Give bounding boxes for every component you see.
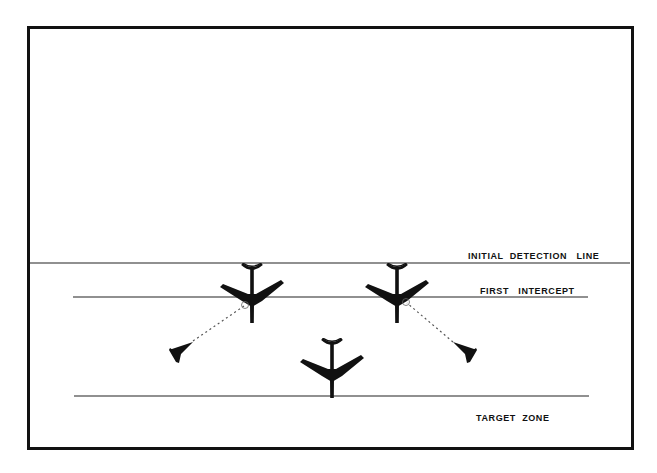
first-intercept-label: FIRST INTERCEPT — [480, 286, 575, 296]
target-zone-label: TARGET ZONE — [476, 413, 550, 423]
interceptor-left-icon — [169, 342, 193, 363]
bomber-left-icon — [220, 263, 284, 323]
bomber-right-icon — [365, 263, 429, 323]
bomber-center-icon — [300, 338, 364, 398]
interceptor-right-icon — [453, 342, 477, 363]
missile-path-right — [407, 303, 453, 342]
missile-path-left — [193, 306, 244, 341]
initial-detection-label: INITIAL DETECTION LINE — [468, 251, 599, 261]
intercept-diagram — [0, 0, 657, 473]
